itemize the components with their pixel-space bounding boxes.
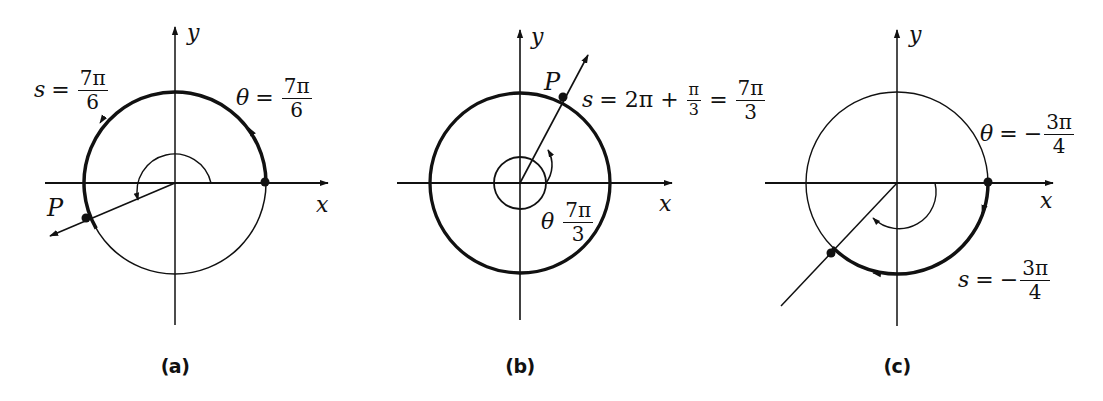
fraction: 7π3 <box>563 200 593 245</box>
s-label-a: s=7π6 <box>34 68 110 113</box>
x-axis-label-a: x <box>316 194 328 216</box>
angle-arc-b <box>546 150 552 183</box>
numerator: 3π <box>1020 258 1050 281</box>
theta-label-c: θ=−3π4 <box>980 112 1076 157</box>
theta-var: θ <box>236 85 249 110</box>
angle-arc-a <box>137 154 211 200</box>
s-var: s <box>34 77 45 102</box>
denominator: 6 <box>86 91 99 113</box>
equals-2pi-plus: = 2π + <box>599 87 678 112</box>
numerator: 3π <box>1044 112 1074 135</box>
terminal-ray-c <box>781 183 897 306</box>
equals: = <box>709 87 727 112</box>
caption-b: (b) <box>505 355 534 377</box>
numerator: 7π <box>282 76 312 99</box>
fraction-pi-3: π3 <box>687 82 702 119</box>
fraction: 3π4 <box>1044 112 1074 157</box>
point-p-label-b: P <box>544 70 560 94</box>
theta-var: θ <box>980 121 993 146</box>
numerator: π <box>687 82 702 101</box>
numerator: 7π <box>78 68 108 91</box>
start-point-a <box>261 178 270 187</box>
point-p-label-a: P <box>47 196 63 220</box>
y-axis-label-b: y <box>531 26 543 48</box>
x-axis-label-c: x <box>1040 190 1052 212</box>
fraction: 3π4 <box>1020 258 1050 303</box>
s-var: s <box>958 267 969 292</box>
equals: = <box>51 77 69 102</box>
fraction-7pi-3: 7π3 <box>736 78 766 123</box>
minus-sign: − <box>1024 121 1042 146</box>
s-label-c: s=−3π4 <box>958 258 1052 303</box>
point-p-a <box>82 214 91 223</box>
equals: = <box>975 267 993 292</box>
s-label-b: s= 2π +π3=7π3 <box>582 78 767 123</box>
denominator: 3 <box>744 101 757 123</box>
equals: = <box>999 121 1017 146</box>
theta-var: θ <box>541 209 554 234</box>
angle-arc-c <box>873 183 936 229</box>
y-axis-label-a: y <box>187 22 199 44</box>
fraction: 7π6 <box>282 76 312 121</box>
equals: = <box>255 85 273 110</box>
caption-a: (a) <box>161 355 190 377</box>
numerator: 7π <box>736 78 766 101</box>
denominator: 3 <box>572 223 585 245</box>
fraction: 7π6 <box>78 68 108 113</box>
theta-label-b: θ 7π3 <box>541 200 595 245</box>
denominator: 3 <box>689 101 699 119</box>
point-p-c <box>827 249 836 258</box>
terminal-ray-a <box>50 183 175 236</box>
s-var: s <box>582 87 593 112</box>
denominator: 4 <box>1053 135 1066 157</box>
denominator: 6 <box>290 99 303 121</box>
theta-label-a: θ=7π6 <box>236 76 314 121</box>
x-axis-label-b: x <box>659 193 671 215</box>
caption-c: (c) <box>883 355 910 377</box>
minus-sign: − <box>1000 267 1018 292</box>
start-point-c <box>984 178 993 187</box>
numerator: 7π <box>563 200 593 223</box>
denominator: 4 <box>1029 281 1042 303</box>
y-axis-label-c: y <box>909 24 921 46</box>
figure-b <box>397 30 672 320</box>
